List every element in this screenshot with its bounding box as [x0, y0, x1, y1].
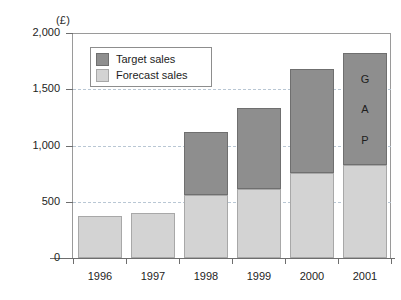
bar-1999	[237, 108, 281, 258]
bar-segment-forecast-2001	[343, 165, 387, 258]
bar-segment-target-2000	[290, 69, 334, 173]
x-axis-tick	[391, 258, 392, 264]
bar-segment-forecast-2000	[290, 173, 334, 259]
y-axis-tick-label: 0	[2, 251, 60, 263]
y-axis-tick-label: 1,500	[2, 82, 60, 94]
y-axis-tick	[66, 202, 73, 203]
y-axis-tick-label: 2,000	[2, 26, 60, 38]
gap-annotation: GAP	[344, 54, 386, 165]
y-axis-tick	[66, 33, 73, 34]
y-axis-tick	[66, 258, 73, 259]
x-axis-label-2001: 2001	[339, 270, 391, 282]
y-axis-tick-label: 500	[2, 195, 60, 207]
bar-segment-target-1998	[184, 132, 228, 195]
legend-swatch-forecast-icon	[96, 69, 109, 82]
x-axis-label-2000: 2000	[286, 270, 338, 282]
x-axis-tick	[73, 258, 74, 264]
x-axis-tick	[338, 258, 339, 264]
bar-2000	[290, 69, 334, 258]
x-axis-tick	[285, 258, 286, 264]
gap-letter-2: P	[361, 135, 368, 146]
legend-swatch-target-icon	[96, 53, 109, 66]
bar-segment-forecast-1997	[131, 213, 175, 258]
bar-segment-forecast-1999	[237, 189, 281, 258]
y-axis-tick	[66, 89, 73, 90]
bar-segment-target-2001: GAP	[343, 53, 387, 164]
gap-letter-0: G	[361, 74, 370, 85]
bar-segment-forecast-1996	[78, 216, 122, 258]
legend-item-forecast: Forecast sales	[96, 69, 206, 82]
y-axis-tick-label: 1,000	[2, 139, 60, 151]
legend-item-target: Target sales	[96, 53, 206, 66]
x-axis-label-1997: 1997	[127, 270, 179, 282]
gap-letter-1: A	[361, 104, 368, 115]
x-axis-label-1996: 1996	[74, 270, 126, 282]
bar-segment-target-1999	[237, 108, 281, 189]
bar-chart: (£) 05001,0001,5002,000 GAP 199619971998…	[0, 0, 401, 300]
bar-1998	[184, 132, 228, 258]
bar-1996	[78, 216, 122, 258]
legend-label-forecast: Forecast sales	[116, 69, 188, 81]
y-axis-unit-label: (£)	[56, 14, 70, 26]
chart-legend: Target sales Forecast sales	[90, 47, 212, 87]
bar-2001: GAP	[343, 53, 387, 258]
legend-label-target: Target sales	[116, 53, 175, 65]
bar-1997	[131, 213, 175, 258]
y-axis-tick	[66, 146, 73, 147]
x-axis-tick	[232, 258, 233, 264]
x-axis-tick	[179, 258, 180, 264]
x-axis-label-1999: 1999	[233, 270, 285, 282]
x-axis-line	[50, 258, 395, 259]
x-axis-label-1998: 1998	[180, 270, 232, 282]
x-axis-tick	[126, 258, 127, 264]
bar-segment-forecast-1998	[184, 195, 228, 258]
